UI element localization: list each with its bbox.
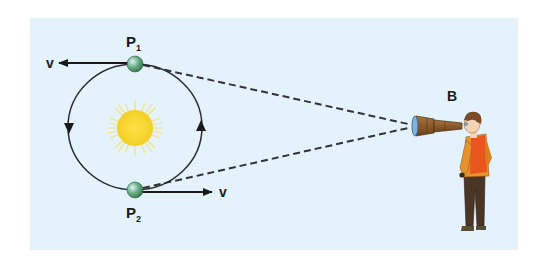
telescope-lens (412, 116, 418, 136)
background-panel (30, 18, 518, 250)
label-velocity-top: v (46, 55, 54, 71)
planet-p2 (127, 182, 143, 198)
sun-icon (107, 100, 163, 156)
planet-p1 (127, 56, 143, 72)
label-velocity-bottom: v (219, 184, 227, 200)
orbit-observation-diagram: P1 P2 v v B (0, 0, 539, 263)
label-observer: B (447, 88, 457, 104)
